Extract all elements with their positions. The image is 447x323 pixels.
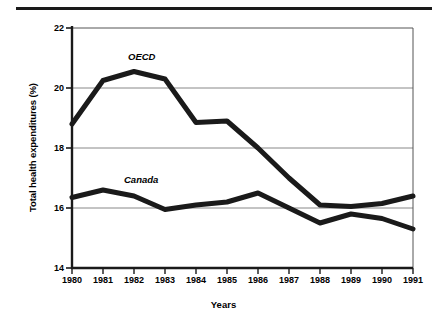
data-line-canada [72, 190, 413, 229]
gridlines [72, 88, 413, 208]
plot-area [0, 0, 447, 323]
chart-figure: Total health expenditures (%) Years 22 2… [0, 0, 447, 323]
data-line-oecd [72, 72, 413, 207]
